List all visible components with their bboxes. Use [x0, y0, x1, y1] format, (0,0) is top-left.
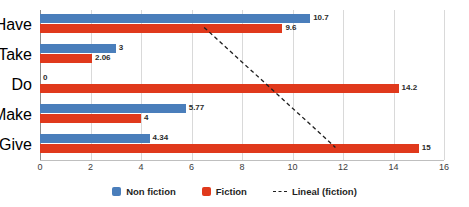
- bar-make-non-fiction[interactable]: [40, 104, 186, 113]
- x-axis-tick-labels: 0246810121416: [40, 162, 444, 176]
- x-axis-tick-label: 16: [439, 162, 449, 172]
- bar-group-take: 32.06: [40, 40, 444, 70]
- bar-value-label: 5.77: [189, 103, 205, 112]
- y-axis-tick-take: Take: [0, 40, 36, 70]
- x-axis-tick-label: 4: [138, 162, 143, 172]
- bar-value-label: 2.06: [95, 53, 111, 62]
- x-axis-line: [40, 160, 444, 161]
- y-axis-tick-make: Make: [0, 100, 36, 130]
- bar-value-label: 4.34: [153, 133, 169, 142]
- x-axis-tick-label: 2: [88, 162, 93, 172]
- legend-item-fiction[interactable]: Fiction: [202, 186, 247, 197]
- y-axis-tick-have: Have: [0, 10, 36, 40]
- y-axis-tick-do: Do: [0, 70, 36, 100]
- bar-give-fiction[interactable]: [40, 144, 419, 153]
- bar-value-label: 9.6: [285, 23, 296, 32]
- bar-value-label: 3: [119, 43, 123, 52]
- gridline: [444, 10, 445, 160]
- square-swatch-icon: [202, 187, 211, 196]
- dashed-line-icon: [273, 187, 287, 196]
- bar-group-give: 4.3415: [40, 130, 444, 160]
- x-axis-tick-label: 12: [338, 162, 348, 172]
- bar-chart: HaveTakeDoMakeGive 10.79.632.06014.25.77…: [0, 0, 469, 207]
- bar-group-have: 10.79.6: [40, 10, 444, 40]
- bar-value-label: 10.7: [313, 13, 329, 22]
- bar-give-non-fiction[interactable]: [40, 134, 150, 143]
- y-axis-tick-label: Have: [0, 16, 32, 34]
- legend-label: Non fiction: [126, 186, 176, 197]
- bar-take-non-fiction[interactable]: [40, 44, 116, 53]
- bar-make-fiction[interactable]: [40, 114, 141, 123]
- legend-item-lineal-fiction[interactable]: Lineal (fiction): [273, 186, 357, 197]
- x-axis-tick-label: 14: [388, 162, 398, 172]
- x-axis-tick-label: 10: [287, 162, 297, 172]
- y-axis-tick-label: Give: [0, 136, 32, 154]
- bar-take-fiction[interactable]: [40, 54, 92, 63]
- chart-legend: Non fictionFictionLineal (fiction): [0, 182, 469, 200]
- x-axis-tick-label: 0: [37, 162, 42, 172]
- square-swatch-icon: [112, 187, 121, 196]
- x-axis-tick-label: 6: [189, 162, 194, 172]
- bar-value-label: 4: [144, 113, 148, 122]
- y-axis-tick-labels: HaveTakeDoMakeGive: [0, 10, 38, 160]
- bar-do-fiction[interactable]: [40, 84, 399, 93]
- plot-area: 10.79.632.06014.25.7744.3415: [40, 10, 444, 160]
- y-axis-tick-label: Do: [12, 76, 32, 94]
- y-axis-tick-give: Give: [0, 130, 36, 160]
- bar-have-non-fiction[interactable]: [40, 14, 310, 23]
- bar-group-make: 5.774: [40, 100, 444, 130]
- legend-label: Fiction: [216, 186, 247, 197]
- bar-have-fiction[interactable]: [40, 24, 282, 33]
- x-axis-tick-label: 8: [239, 162, 244, 172]
- bar-value-label: 14.2: [402, 83, 418, 92]
- bar-value-label: 15: [422, 143, 431, 152]
- y-axis-tick-label: Take: [0, 46, 32, 64]
- bar-group-do: 014.2: [40, 70, 444, 100]
- y-axis-tick-label: Make: [0, 106, 32, 124]
- bar-value-label: 0: [43, 73, 47, 82]
- legend-label: Lineal (fiction): [292, 186, 357, 197]
- legend-item-non-fiction[interactable]: Non fiction: [112, 186, 176, 197]
